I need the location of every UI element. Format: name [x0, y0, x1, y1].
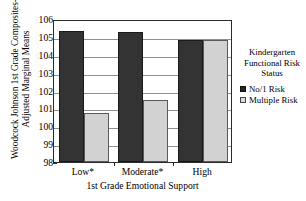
- x-axis-category-labels: Low*Moderate*High: [53, 166, 232, 179]
- y-axis-tick-label: 105: [31, 33, 53, 43]
- x-axis-category-label: Low*: [72, 166, 94, 178]
- dark-square-icon: [240, 86, 246, 92]
- plot-area: [53, 20, 232, 163]
- legend-title-line-3: Status: [238, 68, 306, 79]
- bar-group: [173, 21, 233, 162]
- bar: [143, 100, 168, 162]
- legend-items: No/1 RiskMultiple Risk: [238, 84, 306, 106]
- bar: [178, 40, 203, 162]
- y-axis-tick-label: 100: [31, 122, 53, 132]
- bar-chart-figure: Woodcock Johnson 1st Grade Composites- A…: [0, 0, 306, 201]
- bar-group: [114, 21, 174, 162]
- light-square-icon: [240, 97, 246, 103]
- legend-title-line-2: Functional Risk: [238, 58, 306, 69]
- legend-title-line-1: Kindergarten: [238, 47, 306, 58]
- y-axis-title-line-1: Woodcock Johnson 1st Grade Composites-: [10, 0, 21, 159]
- y-axis-ticks: 9899100101102103104105106: [25, 20, 53, 163]
- x-axis-title: 1st Grade Emotional Support: [53, 180, 232, 192]
- x-axis-category-label: High: [193, 166, 212, 178]
- y-axis-tick-label: 104: [31, 51, 53, 61]
- bar: [84, 113, 109, 162]
- y-axis-tick-label: 99: [31, 140, 53, 150]
- legend-item-label: No/1 Risk: [249, 84, 285, 95]
- x-axis-category-label: Moderate*: [122, 166, 164, 178]
- bar: [203, 40, 228, 162]
- y-axis-tick-label: 98: [31, 158, 53, 168]
- bar: [118, 32, 143, 162]
- legend-item: No/1 Risk: [240, 84, 306, 95]
- y-axis-tick-label: 106: [31, 15, 53, 25]
- legend-title: Kindergarten Functional Risk Status: [238, 47, 306, 79]
- legend-item-label: Multiple Risk: [249, 95, 298, 106]
- bar-group: [54, 21, 114, 162]
- legend: Kindergarten Functional Risk Status No/1…: [238, 47, 306, 106]
- y-axis-tick-label: 102: [31, 87, 53, 97]
- bar: [59, 31, 84, 162]
- legend-item: Multiple Risk: [240, 95, 306, 106]
- y-axis-tick-mark: [53, 163, 57, 164]
- y-axis-tick-label: 103: [31, 69, 53, 79]
- y-axis-tick-label: 101: [31, 105, 53, 115]
